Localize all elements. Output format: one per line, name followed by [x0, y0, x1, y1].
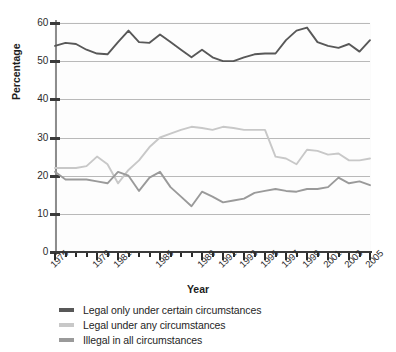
plot-wrapper: 0102030405060 19751979198119851989199119…	[0, 0, 396, 300]
legend-item[interactable]: Illegal in all circumstances	[59, 332, 389, 347]
legend-label: Legal only under certain circumstances	[83, 304, 261, 316]
x-axis-title: Year	[0, 283, 396, 295]
chart-legend: Legal only under certain circumstancesLe…	[59, 302, 389, 347]
legend-swatch-icon	[59, 308, 74, 312]
series-line	[55, 127, 370, 183]
y-axis-title: Percentage	[10, 43, 22, 100]
legend-label: Legal under any circumstances	[83, 319, 225, 331]
legend-swatch-icon	[59, 338, 74, 342]
legend-item[interactable]: Legal only under certain circumstances	[59, 302, 389, 317]
series-line	[55, 172, 370, 206]
legend-swatch-icon	[59, 323, 74, 327]
chart-figure: 0102030405060 19751979198119851989199119…	[0, 0, 396, 352]
legend-label: Illegal in all circumstances	[83, 334, 202, 346]
series-layer	[0, 0, 396, 300]
legend-item[interactable]: Legal under any circumstances	[59, 317, 389, 332]
series-line	[55, 28, 370, 62]
